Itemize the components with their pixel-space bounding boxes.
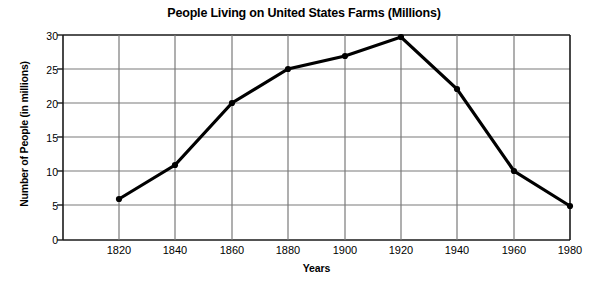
x-tick-label: 1940 [427, 244, 487, 256]
grid-lines [63, 35, 570, 240]
x-tick-label: 1860 [202, 244, 262, 256]
x-axis-title: Years [63, 262, 570, 274]
x-tick-label: 1820 [89, 244, 149, 256]
x-tick-label: 1960 [484, 244, 544, 256]
x-tick-label: 1880 [258, 244, 318, 256]
x-tick-label: 1900 [315, 244, 375, 256]
plot-area [0, 0, 608, 285]
x-tick-label: 1920 [371, 244, 431, 256]
line-chart: People Living on United States Farms (Mi… [0, 0, 608, 285]
axis-ticks [57, 35, 63, 240]
x-tick-label: 1840 [145, 244, 205, 256]
x-tick-label: 1980 [540, 244, 600, 256]
